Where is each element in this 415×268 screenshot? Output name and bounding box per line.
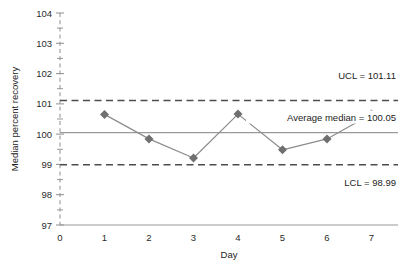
x-tick-label-4: 4	[235, 232, 240, 243]
y-tick-label-100: 100	[36, 129, 52, 140]
x-tick-label-1: 1	[102, 232, 107, 243]
average-median-annotation: Average median = 100.05	[287, 112, 396, 123]
y-tick-label-97: 97	[41, 220, 52, 231]
x-axis-title: Day	[221, 249, 238, 260]
x-tick-label-6: 6	[324, 232, 329, 243]
control-chart: 104 103 102 101 100 99 98 97 Median perc…	[0, 0, 415, 268]
x-tick-label-7: 7	[369, 232, 374, 243]
y-tick-label-101: 101	[36, 98, 52, 109]
y-axis-title: Median percent recovery	[9, 66, 20, 171]
ucl-annotation: UCL = 101.11	[338, 70, 396, 81]
y-tick-label-103: 103	[36, 38, 52, 49]
lcl-annotation: LCL = 98.99	[344, 177, 396, 188]
x-tick-label-2: 2	[146, 232, 151, 243]
y-tick-label-98: 98	[41, 189, 52, 200]
x-tick-label-5: 5	[280, 232, 285, 243]
y-tick-label-102: 102	[36, 68, 52, 79]
x-tick-label-0: 0	[57, 232, 62, 243]
x-tick-label-3: 3	[191, 232, 196, 243]
chart-canvas: 104 103 102 101 100 99 98 97 Median perc…	[0, 0, 415, 268]
y-tick-label-104: 104	[36, 8, 52, 19]
y-tick-label-99: 99	[41, 159, 52, 170]
